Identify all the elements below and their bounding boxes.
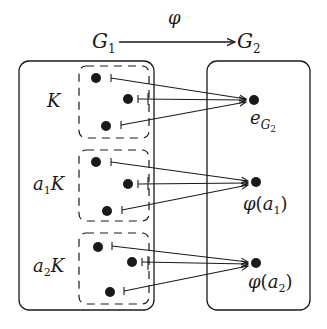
element-dot <box>102 206 112 216</box>
element-dot <box>123 94 133 104</box>
codomain-label: G2 <box>237 29 261 56</box>
target-identity: eG2 <box>249 95 276 134</box>
image-dot <box>251 177 261 187</box>
maps-to-arrow <box>111 162 248 181</box>
maps-to-arrow <box>124 266 248 291</box>
target-phi-a1: φ(a1) <box>243 177 287 217</box>
coset-k: K <box>46 66 149 138</box>
coset-homomorphism-diagram: G2 --> G1 G2 φ K a1K a2K <box>0 0 327 329</box>
coset-label: a2K <box>33 255 66 279</box>
element-dot <box>91 73 101 83</box>
coset-a1k: a1K <box>33 150 149 221</box>
coset-a2k: a2K <box>33 233 149 304</box>
element-dot <box>123 179 133 189</box>
domain-label: G1 <box>92 29 116 56</box>
maps-to-arrow <box>121 102 246 125</box>
identity-dot <box>249 95 259 105</box>
element-dot <box>127 257 137 267</box>
image-label: φ(a2) <box>248 271 292 295</box>
map-label-phi: φ <box>168 7 181 28</box>
image-dot <box>251 258 261 268</box>
element-dot <box>105 287 115 297</box>
element-dot <box>101 121 111 131</box>
element-dot <box>91 157 101 167</box>
element-dot <box>93 242 103 252</box>
maps-to-arrow <box>142 262 248 264</box>
maps-to-arrow <box>122 185 248 210</box>
target-phi-a2: φ(a2) <box>248 258 292 295</box>
identity-label: eG2 <box>250 107 276 134</box>
coset-label: K <box>46 90 62 111</box>
image-label: φ(a1) <box>243 193 287 217</box>
coset-label: a1K <box>33 173 66 197</box>
top-map: G1 G2 φ <box>92 7 261 56</box>
